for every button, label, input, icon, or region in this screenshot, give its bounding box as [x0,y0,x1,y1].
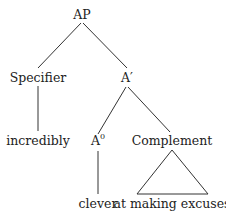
node-complement: Complement [132,133,213,148]
node-incredibly: incredibly [6,133,70,148]
node-ap: AP [72,7,90,22]
node-at-making-excuses: at making excuses [113,196,226,211]
node-a0-superscript: 0 [100,132,105,141]
complement-triangle [137,150,208,194]
node-clever: clever [79,196,118,211]
edge-abar-a0 [98,87,126,134]
node-a0: A0 [90,132,105,148]
edge-ap-abar [83,23,127,68]
edge-abar-complement [128,87,170,132]
node-specifier: Specifier [10,70,67,85]
edge-ap-specifier [38,23,81,68]
node-a-bar: A′ [120,70,133,85]
syntax-tree-diagram: AP Specifier A′ incredibly A0 Complement… [0,0,226,221]
